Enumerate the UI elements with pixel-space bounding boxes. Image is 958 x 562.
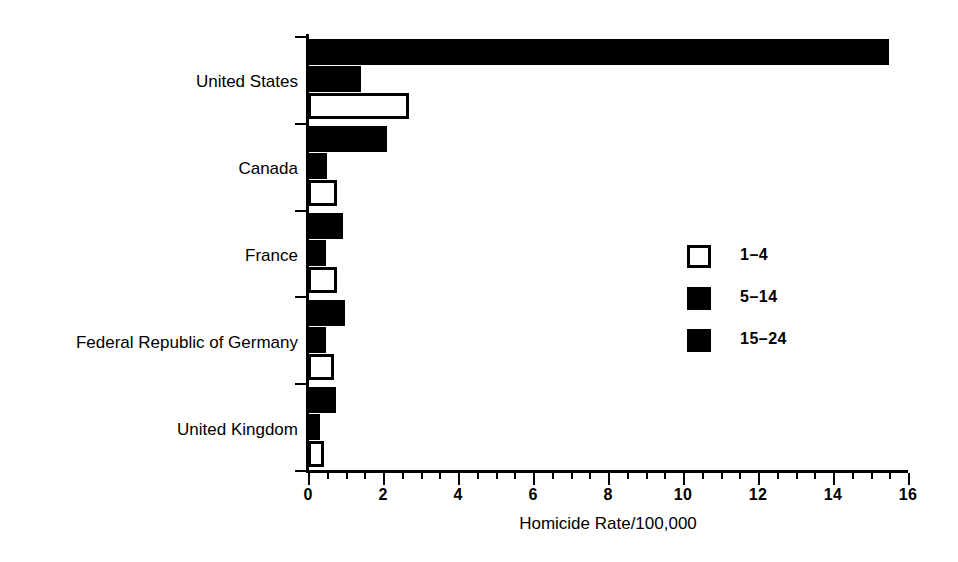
y-axis-tick [295, 210, 308, 212]
bar-federal-republic-of-germany-1-4 [308, 354, 334, 380]
x-axis-minor-tick [777, 473, 779, 479]
x-axis-minor-tick [814, 473, 816, 479]
bar-united-kingdom-1-4 [308, 441, 324, 467]
bar-united-states-15-24 [308, 39, 889, 65]
bar-united-states-1-4 [308, 93, 409, 119]
y-axis-label-federal-republic-of-germany: Federal Republic of Germany [76, 334, 298, 351]
x-axis-minor-tick [589, 473, 591, 479]
x-axis-tick-label-14: 14 [824, 486, 842, 504]
y-axis-tick [295, 296, 308, 298]
x-axis-major-tick [608, 473, 610, 485]
x-axis-ticks [308, 473, 908, 487]
x-axis-major-tick [908, 473, 910, 485]
y-axis-tick [295, 383, 308, 385]
bar-federal-republic-of-germany-15-24 [308, 300, 345, 326]
x-axis-minor-tick [871, 473, 873, 479]
x-axis-minor-tick [796, 473, 798, 479]
legend-label-15-24: 15–24 [740, 330, 787, 348]
x-axis-major-tick [758, 473, 760, 485]
legend-swatch-15-24-icon [687, 329, 711, 352]
x-axis-minor-tick [327, 473, 329, 479]
y-axis-category-labels: United States Canada France Federal Repu… [0, 0, 298, 562]
y-axis-tick [295, 36, 308, 38]
x-axis-minor-tick [402, 473, 404, 479]
x-axis-tick-label-8: 8 [603, 486, 612, 504]
x-axis-minor-tick [702, 473, 704, 479]
y-axis-label-canada: Canada [238, 160, 298, 177]
x-axis-minor-tick [364, 473, 366, 479]
x-axis-tick-label-6: 6 [528, 486, 537, 504]
x-axis-major-tick [383, 473, 385, 485]
bar-federal-republic-of-germany-5-14 [308, 327, 326, 353]
legend-entry-15-24: 15–24 [687, 327, 877, 369]
x-axis-minor-tick [552, 473, 554, 479]
bar-united-states-5-14 [308, 66, 361, 92]
x-axis-major-tick [308, 473, 310, 485]
x-axis-minor-tick [514, 473, 516, 479]
x-axis-tick-label-0: 0 [303, 486, 312, 504]
x-axis-major-tick [833, 473, 835, 485]
x-axis-minor-tick [439, 473, 441, 479]
x-axis-tick-label-16: 16 [899, 486, 917, 504]
y-axis-label-france: France [245, 247, 298, 264]
x-axis-major-tick [533, 473, 535, 485]
x-axis-minor-tick [496, 473, 498, 479]
bar-france-1-4 [308, 267, 337, 293]
x-axis-title: Homicide Rate/100,000 [308, 514, 908, 534]
x-axis-tick-label-10: 10 [674, 486, 692, 504]
x-axis-minor-tick [421, 473, 423, 479]
bar-united-kingdom-15-24 [308, 387, 336, 413]
legend-label-1-4: 1–4 [740, 246, 768, 264]
x-axis-major-tick [458, 473, 460, 485]
legend-swatch-5-14-icon [687, 287, 711, 310]
bar-canada-15-24 [308, 126, 387, 152]
x-axis-tick-label-4: 4 [453, 486, 462, 504]
bar-france-15-24 [308, 213, 343, 239]
x-axis-tick-label-12: 12 [749, 486, 767, 504]
legend-entry-1-4: 1–4 [687, 243, 877, 285]
legend: 1–4 5–14 15–24 [687, 243, 877, 369]
y-axis-tick [295, 123, 308, 125]
x-axis-minor-tick [627, 473, 629, 479]
x-axis-minor-tick [646, 473, 648, 479]
x-axis-minor-tick [889, 473, 891, 479]
x-axis-minor-tick [852, 473, 854, 479]
x-axis-major-tick [683, 473, 685, 485]
bar-canada-5-14 [308, 153, 327, 179]
x-axis-minor-tick [571, 473, 573, 479]
x-axis-minor-tick [664, 473, 666, 479]
bar-united-kingdom-5-14 [308, 414, 320, 440]
y-axis-tick [295, 470, 308, 472]
x-axis-minor-tick [721, 473, 723, 479]
bar-france-5-14 [308, 240, 326, 266]
x-axis-tick-label-2: 2 [378, 486, 387, 504]
y-axis-label-united-states: United States [196, 73, 298, 90]
legend-label-5-14: 5–14 [740, 288, 778, 306]
legend-swatch-1-4-icon [687, 245, 711, 268]
x-axis-minor-tick [477, 473, 479, 479]
x-axis-minor-tick [739, 473, 741, 479]
y-axis-label-united-kingdom: United Kingdom [177, 421, 298, 438]
x-axis-minor-tick [346, 473, 348, 479]
homicide-rate-bar-chart: United States Canada France Federal Repu… [0, 0, 958, 562]
legend-entry-5-14: 5–14 [687, 285, 877, 327]
bar-canada-1-4 [308, 180, 337, 206]
